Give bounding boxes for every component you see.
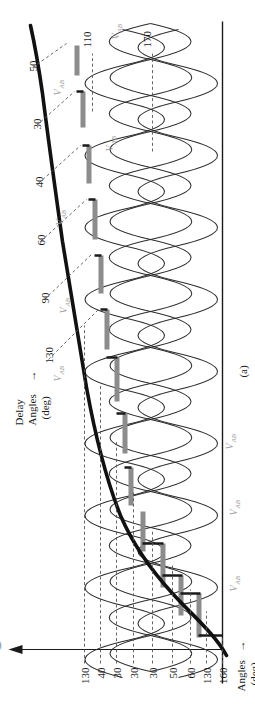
tick-delay-90: 90 [38,292,50,304]
fill-segment [178,575,183,615]
waveform-figure: θ [0,0,255,711]
svg-text:AB: AB [109,135,117,145]
carrier-wave-4 [138,29,218,677]
tick-30c: 30 [110,667,122,679]
figure-caption: These Segments of the Waveform Are Forme… [213,707,253,711]
vab-label: V AB [103,135,117,151]
step-risers [76,91,222,635]
svg-text:AB: AB [115,23,123,33]
envelope-curve-group [30,25,226,655]
vab-label: V AB [51,79,65,95]
delay-axis-label-line2: Angles [25,394,37,425]
fill-segment [104,309,109,349]
figure-page: θ [0,0,255,711]
vab-label: V AB [227,499,241,515]
tick-delay-110: 110 [80,30,92,47]
fill-segment [122,413,127,453]
svg-text:AB: AB [233,499,241,509]
carrier-waveforms [85,23,218,677]
fill-segment [196,593,201,637]
tick-delay-40: 40 [32,176,44,188]
envelope-curve [30,25,226,655]
tick-delay-30: 30 [30,118,42,130]
tick-160: 160 [216,667,228,684]
svg-text:AB: AB [59,209,67,219]
svg-text:AB: AB [233,575,241,585]
delay-axis-unit: (deg) [38,395,51,419]
vab-label: V AB [227,575,241,591]
vab-label: V AB [51,365,65,381]
vab-label: V AB [53,209,67,225]
tick-60: 60 [184,667,196,679]
angles-axis-arrow: → [234,640,246,651]
tick-30b: 30 [127,667,139,679]
vab-label: V AB [109,23,123,39]
fill-segment [140,511,145,551]
theta-arrowhead [8,645,22,654]
fill-segment [80,91,85,127]
delay-axis-arrow: → [25,370,37,381]
svg-text:AB: AB [63,297,71,307]
tick-delay-170: 170 [140,30,152,47]
tick-130: 130 [200,667,212,684]
delay-axis-label: Delay Angles → (deg) [12,370,51,425]
angles-axis-unit: (deg) [247,661,255,685]
angles-axis-label-text: Angles [234,660,246,691]
vab-label: V AB [57,297,71,313]
tick-50: 50 [166,667,178,679]
svg-text:AB: AB [57,365,65,375]
fill-segment [98,255,103,293]
tick-130b: 130 [78,667,90,684]
delay-angle-tick-labels: 130 90 60 40 30 50 110 170 [26,30,152,363]
tick-40a: 40 [94,667,106,679]
leader-line [48,309,98,359]
fill-segment [92,199,97,239]
caption-line-2: Are Formed by the even Bank of [223,707,233,711]
subfigure-label: (a) [236,365,249,378]
tick-30a: 30 [146,667,158,679]
angle-tick-labels: 160 130 60 50 30 30 30 40 130 [78,667,228,684]
svg-text:AB: AB [229,433,237,443]
carrier-wave-2 [109,23,192,671]
vab-label: V AB [223,433,237,449]
fill-segment [86,145,91,183]
tick-delay-60: 60 [34,234,46,246]
tick-delay-130: 130 [42,346,54,363]
theta-label: θ [0,638,1,652]
fill-segment [114,357,119,401]
svg-text:AB: AB [57,79,65,89]
caption-line-1: These Segments of the Waveform [213,707,223,711]
fill-segment [74,45,79,75]
angles-axis-label: Angles → (deg) [234,640,255,691]
delay-axis-label-line1: Delay [12,398,24,425]
fill-segment [128,467,133,505]
tick-delay-50: 50 [26,60,38,72]
